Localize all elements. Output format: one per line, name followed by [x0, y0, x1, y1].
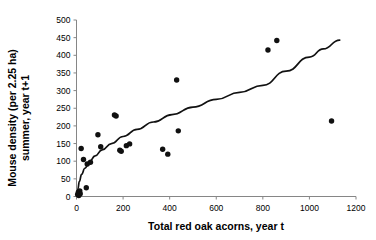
- y-tick-label: 400: [56, 50, 70, 60]
- y-tick-label: 250: [56, 103, 70, 113]
- data-point: [274, 38, 279, 43]
- x-tick-label: 400: [163, 203, 177, 213]
- x-tick-label: 800: [256, 203, 270, 213]
- data-point: [176, 128, 181, 133]
- data-point: [98, 144, 103, 149]
- x-tick-label: 600: [209, 203, 223, 213]
- y-tick-label: 500: [56, 15, 70, 25]
- data-point: [78, 191, 83, 196]
- y-tick-label: 450: [56, 33, 70, 43]
- y-tick-label: 0: [66, 192, 71, 202]
- data-point: [265, 47, 270, 52]
- chart-figure: Mouse density (per 2.25 ha) summer, year…: [0, 0, 376, 240]
- scatter-plot: Mouse density (per 2.25 ha) summer, year…: [0, 0, 376, 240]
- data-point: [88, 160, 93, 165]
- x-tick-label: 0: [74, 203, 79, 213]
- x-tick-label-group: 020040060080010001200: [74, 203, 366, 213]
- x-tick-label: 200: [116, 203, 130, 213]
- y-tick-label: 200: [56, 121, 70, 131]
- y-tick-label: 50: [61, 174, 71, 184]
- data-point: [81, 157, 86, 162]
- data-point: [160, 147, 165, 152]
- x-axis-title: Total red oak acorns, year t: [148, 220, 284, 232]
- data-point: [165, 151, 170, 156]
- data-point-group: [75, 38, 334, 198]
- data-point: [84, 185, 89, 190]
- tick-mark-group: [74, 20, 357, 200]
- y-tick-label-group: 050100150200250300350400450500: [56, 15, 70, 202]
- y-tick-label: 350: [56, 68, 70, 78]
- y-tick-label: 150: [56, 139, 70, 149]
- y-tick-label: 300: [56, 86, 70, 96]
- data-point: [329, 118, 334, 123]
- data-point: [127, 141, 132, 146]
- y-axis-title-line1: Mouse density (per 2.25 ha): [6, 49, 18, 187]
- y-tick-label: 100: [56, 156, 70, 166]
- data-point: [119, 149, 124, 154]
- y-axis-title-line2: summer, year t+1: [19, 75, 31, 161]
- y-axis-title-group: Mouse density (per 2.25 ha) summer, year…: [6, 49, 31, 187]
- x-tick-label: 1200: [347, 203, 366, 213]
- data-point: [113, 113, 118, 118]
- data-point: [95, 132, 100, 137]
- data-point: [174, 77, 179, 82]
- data-point: [78, 146, 83, 151]
- x-tick-label: 1000: [300, 203, 319, 213]
